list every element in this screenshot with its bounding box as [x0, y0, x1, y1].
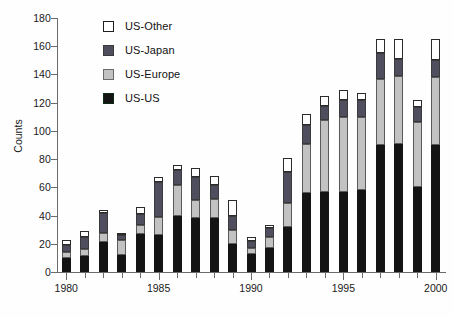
bar-segment-us-us [320, 192, 329, 272]
bar-segment-us-europe [210, 199, 219, 219]
x-tick-label: 1985 [147, 282, 170, 294]
bar-segment-us-us [247, 254, 256, 272]
legend-label-japan: US-Japan [125, 44, 175, 56]
bar-segment-us-other [136, 207, 145, 214]
bar-segment-us-japan [154, 182, 163, 217]
y-tick-label: 100 [33, 125, 51, 137]
bar-segment-us-japan [357, 100, 366, 117]
bar-segment-us-other [413, 100, 422, 107]
x-tick-minor [196, 273, 197, 278]
bar-1998 [394, 39, 403, 272]
bar-segment-us-europe [376, 79, 385, 145]
bar-segment-us-europe [283, 203, 292, 227]
x-tick-minor [269, 273, 270, 278]
x-tick-minor [380, 273, 381, 278]
y-tick-label: 40 [39, 210, 51, 222]
x-tick-label: 1990 [239, 282, 262, 294]
x-tick-minor [399, 273, 400, 278]
bar-segment-us-europe [136, 225, 145, 233]
bar-segment-us-japan [413, 107, 422, 123]
bar-segment-us-other [394, 39, 403, 59]
bar-1997 [376, 39, 385, 272]
bar-segment-us-us [80, 256, 89, 272]
bar-chart: Counts 020406080100120140160180 19801985… [0, 0, 453, 317]
bar-segment-us-europe [80, 249, 89, 256]
bar-segment-us-us [136, 234, 145, 272]
x-tick-minor [306, 273, 307, 278]
y-tick-label: 80 [39, 153, 51, 165]
x-tick-minor [233, 273, 234, 278]
bar-segment-us-us [99, 242, 108, 272]
bar-segment-us-europe [191, 200, 200, 218]
bar-segment-us-other [431, 39, 440, 60]
bar-segment-us-us [413, 187, 422, 272]
bar-segment-us-japan [173, 170, 182, 184]
y-tick-label: 180 [33, 12, 51, 24]
bar-segment-us-us [302, 193, 311, 272]
bar-segment-us-europe [413, 122, 422, 187]
bar-segment-us-other [320, 96, 329, 106]
legend-swatch-europe-icon [103, 69, 114, 80]
x-tick-minor [214, 273, 215, 278]
bar-1985 [154, 177, 163, 272]
x-tick-major [159, 273, 160, 280]
legend-swatch-other-icon [103, 21, 114, 32]
x-tick-label: 1980 [55, 282, 78, 294]
y-tick-label: 20 [39, 238, 51, 250]
bar-segment-us-us [191, 218, 200, 272]
bar-segment-us-us [431, 145, 440, 272]
bar-segment-us-europe [357, 117, 366, 190]
bar-segment-us-other [302, 114, 311, 125]
bar-segment-us-us [265, 248, 274, 272]
x-tick-label: 2000 [424, 282, 447, 294]
bar-segment-us-other [191, 168, 200, 178]
bar-segment-us-other [154, 177, 163, 181]
bar-segment-us-us [173, 216, 182, 272]
y-axis-tick-labels: 020406080100120140160180 [0, 0, 51, 273]
bar-segment-us-europe [173, 185, 182, 216]
bar-segment-us-japan [136, 214, 145, 225]
y-tick-label: 140 [33, 68, 51, 80]
bar-1984 [136, 207, 145, 272]
bar-segment-us-us [117, 255, 126, 272]
bar-segment-us-other [265, 225, 274, 228]
bar-1983 [117, 233, 126, 273]
bar-segment-us-europe [154, 217, 163, 235]
bar-segment-us-japan [376, 53, 385, 78]
legend-label-us: US-US [125, 92, 160, 104]
bar-segment-us-japan [80, 237, 89, 250]
legend-label-other: US-Other [125, 20, 172, 32]
x-tick-minor [362, 273, 363, 278]
legend-label-europe: US-Europe [125, 68, 180, 80]
bar-segment-us-other [99, 210, 108, 213]
bar-segment-us-japan [431, 60, 440, 77]
bar-segment-us-europe [265, 237, 274, 248]
bar-segment-us-other [247, 237, 256, 241]
bar-segment-us-europe [431, 77, 440, 145]
bar-segment-us-us [339, 192, 348, 272]
bar-segment-us-japan [283, 172, 292, 203]
bar-1980 [62, 240, 71, 272]
x-tick-minor [177, 273, 178, 278]
legend-item-other: US-Other [103, 14, 180, 38]
y-tick-label: 120 [33, 97, 51, 109]
x-tick-major [251, 273, 252, 280]
y-tick-label: 60 [39, 181, 51, 193]
x-tick-minor [85, 273, 86, 278]
x-tick-minor [288, 273, 289, 278]
x-tick-major [66, 273, 67, 280]
bar-1981 [80, 231, 89, 272]
bar-1995 [339, 90, 348, 272]
bar-segment-us-europe [99, 233, 108, 243]
bar-1986 [173, 165, 182, 272]
x-tick-minor [122, 273, 123, 278]
bar-segment-us-us [210, 218, 219, 272]
bar-segment-us-europe [320, 120, 329, 192]
bar-segment-us-europe [394, 76, 403, 144]
bar-segment-us-europe [247, 248, 256, 254]
x-tick-minor [140, 273, 141, 278]
chart-legend: US-Other US-Japan US-Europe US-US [103, 14, 180, 110]
bar-segment-us-other [210, 176, 219, 184]
bar-segment-us-other [357, 93, 366, 100]
bar-segment-us-japan [247, 241, 256, 248]
